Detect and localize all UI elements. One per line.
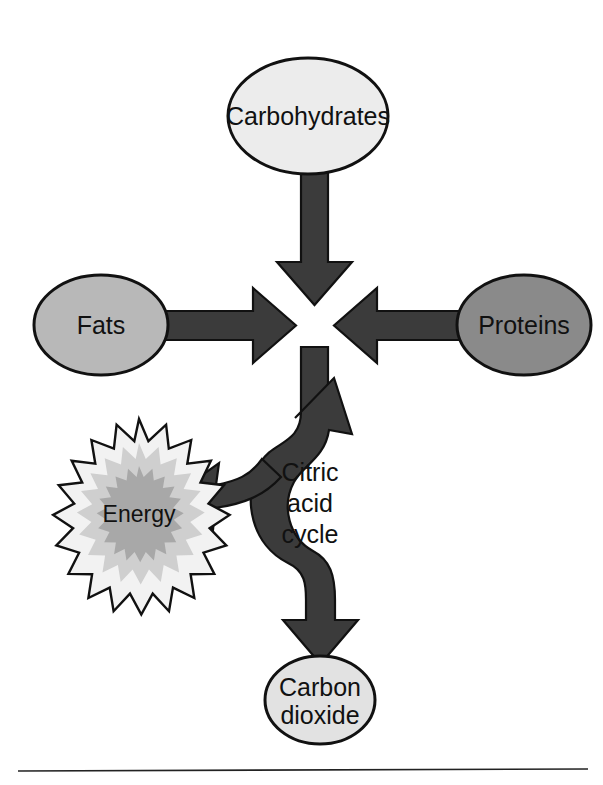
- node-energy: Energy: [53, 419, 230, 615]
- arrow-fats-to-center: [160, 288, 296, 363]
- citric-acid-cycle-label-line2: acid: [287, 489, 333, 517]
- node-carbohydrates-label: Carbohydrates: [226, 102, 390, 130]
- node-carbon-dioxide-label-line1: Carbon: [279, 673, 361, 701]
- citric-acid-cycle-label-line3: cycle: [282, 520, 339, 548]
- citric-acid-cycle-label-line1: Citric: [282, 458, 339, 486]
- node-fats-label: Fats: [77, 311, 126, 339]
- node-energy-label: Energy: [103, 501, 176, 527]
- arrow-proteins-to-center: [334, 288, 470, 363]
- bottom-divider: [18, 769, 588, 771]
- arrow-carbohydrates-to-center: [277, 168, 352, 305]
- node-citric-acid-cycle: Citric acid cycle: [282, 458, 339, 548]
- diagram-canvas: Carbohydrates Fats Proteins Energy Citri…: [0, 0, 603, 785]
- node-carbon-dioxide-label-line2: dioxide: [280, 701, 359, 729]
- metabolism-diagram: Carbohydrates Fats Proteins Energy Citri…: [0, 0, 603, 785]
- node-proteins-label: Proteins: [478, 311, 570, 339]
